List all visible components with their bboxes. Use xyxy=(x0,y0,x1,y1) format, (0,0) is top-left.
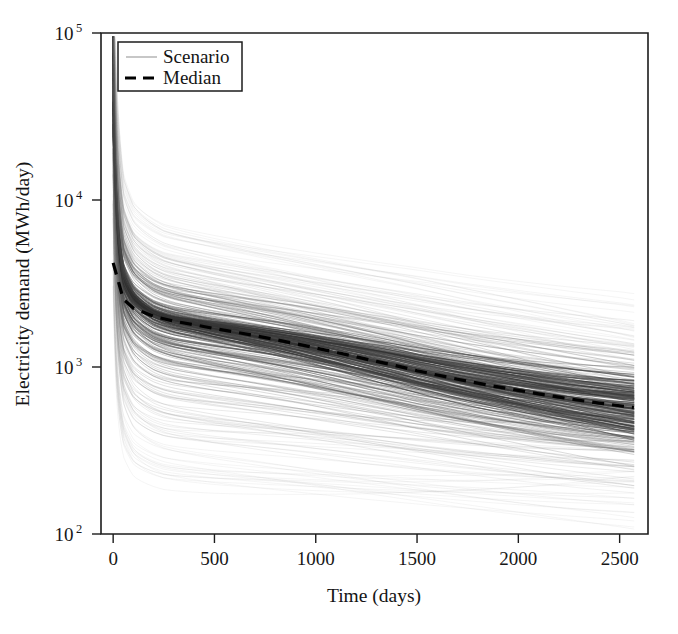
x-tick-label: 2500 xyxy=(601,548,639,569)
x-tick-label: 1500 xyxy=(398,548,436,569)
legend-label-scenario: Scenario xyxy=(163,46,229,67)
x-tick-label: 500 xyxy=(200,548,229,569)
y-axis-title: Electricity demand (MWh/day) xyxy=(12,162,34,407)
y-tick-label: 10 xyxy=(55,23,74,44)
y-tick-label: 10 xyxy=(55,524,74,545)
electricity-demand-spaghetti-chart: 05001000150020002500 102103104105 Time (… xyxy=(0,0,678,634)
y-tick-label: 10 xyxy=(55,357,74,378)
figure-root: 05001000150020002500 102103104105 Time (… xyxy=(0,0,678,634)
y-tick-label-exponent: 5 xyxy=(76,21,82,35)
x-tick-label: 2000 xyxy=(499,548,537,569)
legend: Scenario Median xyxy=(118,42,242,91)
legend-label-median: Median xyxy=(163,67,222,88)
y-tick-label-exponent: 3 xyxy=(76,355,82,369)
x-tick-label: 1000 xyxy=(297,548,335,569)
y-tick-label-exponent: 4 xyxy=(76,188,83,202)
x-axis-title: Time (days) xyxy=(327,585,421,607)
y-tick-label-exponent: 2 xyxy=(76,522,82,536)
y-tick-label: 10 xyxy=(55,190,74,211)
x-tick-label: 0 xyxy=(108,548,118,569)
